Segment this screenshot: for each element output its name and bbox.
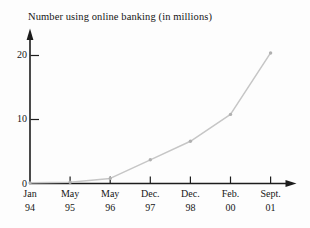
x-tick-year-label: 00 <box>226 202 236 213</box>
x-tick-month-label: Dec. <box>181 188 200 199</box>
x-tick-year-label: 01 <box>266 202 276 213</box>
y-axis-arrow-icon <box>27 29 34 41</box>
x-tick-month-label: Dec. <box>141 188 160 199</box>
x-tick-year-label: 98 <box>185 202 195 213</box>
data-point <box>189 140 192 143</box>
x-axis-arrow-icon <box>286 180 297 187</box>
x-tick-month-label: Jan <box>23 188 36 199</box>
data-point <box>229 113 232 116</box>
x-tick-month-label: May <box>61 188 79 199</box>
x-tick-month-label: Feb. <box>222 188 240 199</box>
x-tick-month-label: Sept. <box>260 188 280 199</box>
data-point <box>149 158 152 161</box>
data-point <box>269 51 272 54</box>
data-point <box>109 177 112 180</box>
data-point <box>68 181 71 184</box>
data-point <box>28 181 31 184</box>
y-tick-label: 10 <box>17 113 27 124</box>
y-tick-label: 20 <box>17 49 27 60</box>
chart-canvas: 01020Jan94May95May96Dec.97Dec.98Feb.00Se… <box>0 0 310 228</box>
x-tick-year-label: 97 <box>145 202 155 213</box>
x-tick-year-label: 95 <box>65 202 75 213</box>
x-tick-year-label: 96 <box>105 202 115 213</box>
data-line <box>30 53 271 183</box>
online-banking-chart-figure: Number using online banking (in millions… <box>0 0 310 228</box>
x-tick-year-label: 94 <box>25 202 35 213</box>
x-tick-month-label: May <box>101 188 119 199</box>
